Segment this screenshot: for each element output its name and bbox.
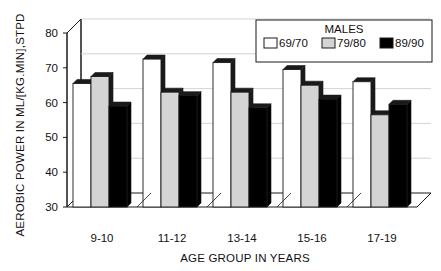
x-axis-title: AGE GROUP IN YEARS	[180, 252, 310, 264]
legend-label: 69/70	[279, 37, 308, 49]
bar-front-face	[161, 92, 179, 207]
x-tick-label: 13-14	[227, 232, 257, 244]
chart-canvas: 304050607080 9-1011-1213-1415-1617-19 AG…	[0, 0, 441, 271]
aerobic-power-bar-chart: 304050607080 9-1011-1213-1415-1617-19 AG…	[0, 0, 441, 271]
bar-top-cap	[161, 88, 183, 92]
x-tick-label: 11-12	[158, 232, 187, 244]
bar-top-cap	[389, 100, 411, 104]
bar-front-face	[143, 59, 161, 207]
legend-swatch	[322, 38, 335, 48]
x-tick-label: 15-16	[297, 232, 326, 244]
bar-front-face	[283, 70, 301, 207]
legend-swatch	[264, 38, 277, 48]
bar-front-face	[301, 85, 319, 207]
bar	[109, 102, 131, 207]
x-tick-label: 9-10	[90, 232, 113, 244]
bar-front-face	[353, 82, 371, 207]
bar-top-cap	[91, 73, 113, 77]
bar-side-face	[127, 102, 131, 207]
bar-front-face	[213, 63, 231, 207]
bar-front-face	[319, 99, 337, 207]
bar-front-face	[389, 104, 407, 207]
bar	[389, 100, 411, 207]
bar-top-cap	[213, 59, 235, 63]
bar-front-face	[91, 77, 109, 208]
bar	[319, 95, 341, 207]
bar-front-face	[231, 92, 249, 207]
y-tick-label: 40	[45, 166, 58, 178]
bar-top-cap	[353, 78, 375, 82]
bar-side-face	[407, 100, 411, 207]
bar-front-face	[109, 106, 127, 207]
legend-label: 79/80	[337, 37, 366, 49]
legend-title: MALES	[325, 23, 364, 35]
bar-top-cap	[231, 88, 253, 92]
bar-top-cap	[179, 92, 201, 96]
bar-top-cap	[109, 102, 131, 106]
y-tick-label: 50	[45, 131, 58, 143]
bar-side-face	[267, 104, 271, 207]
bar-front-face	[249, 108, 267, 207]
x-tick-label: 17-19	[367, 232, 396, 244]
bar-top-cap	[301, 81, 323, 85]
legend-label: 89/90	[395, 37, 424, 49]
legend: MALES 69/7079/8089/90	[256, 20, 432, 62]
y-axis: 304050607080	[45, 27, 67, 213]
bar-side-face	[337, 95, 341, 207]
legend-entries: 69/7079/8089/90	[264, 37, 424, 49]
y-tick-label: 70	[45, 62, 58, 74]
bar-front-face	[73, 83, 91, 207]
bar-front-face	[179, 96, 197, 207]
legend-swatch	[380, 38, 393, 48]
y-tick-label: 60	[45, 97, 58, 109]
bar-side-face	[197, 92, 201, 207]
bar-top-cap	[249, 104, 271, 108]
y-axis-title: AEROBIC POWER IN ML/[KG.MIN],STPD	[14, 13, 26, 236]
bar	[249, 104, 271, 207]
bar-top-cap	[143, 55, 165, 59]
bar-top-cap	[283, 66, 305, 70]
y-tick-label: 30	[45, 201, 58, 213]
bar-top-cap	[319, 95, 341, 99]
y-tick-label: 80	[45, 27, 58, 39]
bar-front-face	[371, 115, 389, 207]
bar	[179, 92, 201, 207]
